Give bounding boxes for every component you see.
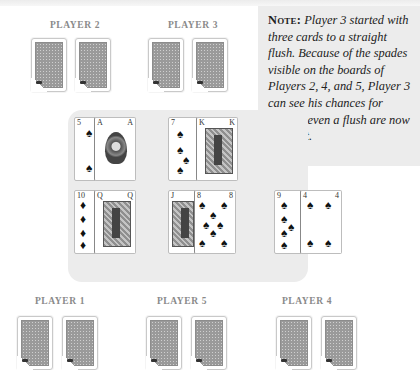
player-2-hole-card-1 <box>31 38 67 92</box>
player-1-hole-card-2 <box>62 316 98 370</box>
player-4-hole-card-2 <box>321 316 357 370</box>
spade-icon: ♠ <box>210 209 216 221</box>
board-card-4-spades: 4 4 ♠ ♠ ♠ ♠ <box>300 190 342 254</box>
board-card-8-spades: 8 8 ♠ ♠ ♠ ♠ ♠ ♠ ♠ ♠ <box>194 190 236 254</box>
spade-icon: ♠ <box>86 162 92 174</box>
card-curl-icon <box>192 78 208 92</box>
diamond-icon: ♦ <box>80 199 86 211</box>
spade-icon: ♠ <box>281 239 287 251</box>
spade-icon: ♠ <box>199 237 205 249</box>
spade-icon: ♠ <box>177 164 183 176</box>
spade-icon: ♠ <box>281 199 287 211</box>
card-curl-icon <box>75 78 91 92</box>
player-3-label: PLAYER 3 <box>148 20 238 30</box>
board-card-king-spades: K K <box>196 117 238 181</box>
player-2-hole-card-2 <box>75 38 111 92</box>
player-1-label: PLAYER 1 <box>15 296 105 306</box>
card-curl-icon <box>276 356 292 370</box>
spade-icon: ♠ <box>183 154 189 166</box>
jack-figure-icon <box>172 201 194 247</box>
board-card-queen-spades: Q Q <box>94 190 136 254</box>
spade-icon: ♠ <box>210 227 216 239</box>
board-card-ace-spades: A A <box>94 117 136 181</box>
spade-icon: ♠ <box>307 199 313 211</box>
spade-icon: ♠ <box>203 219 209 231</box>
player-5-hole-card-2 <box>191 316 227 370</box>
player-4-hole-card-1 <box>276 316 312 370</box>
card-curl-icon <box>31 78 47 92</box>
spade-icon: ♠ <box>86 127 92 139</box>
player-1-hole-card-1 <box>17 316 53 370</box>
spade-icon: ♠ <box>221 237 227 249</box>
diamond-icon: ♦ <box>80 239 86 251</box>
spade-icon: ♠ <box>281 213 287 225</box>
king-figure-icon <box>205 128 233 174</box>
player-2-label: PLAYER 2 <box>30 20 120 30</box>
card-curl-icon <box>148 78 164 92</box>
spade-icon: ♠ <box>325 199 331 211</box>
card-curl-icon <box>321 356 337 370</box>
spade-icon: ♠ <box>221 199 227 211</box>
card-curl-icon <box>17 356 33 370</box>
player-3-hole-card-1 <box>148 38 184 92</box>
spade-icon: ♠ <box>217 219 223 231</box>
diamond-icon: ♦ <box>80 213 86 225</box>
card-curl-icon <box>146 356 162 370</box>
spade-icon: ♠ <box>177 128 183 140</box>
player-3-hole-card-2 <box>192 38 228 92</box>
queen-figure-icon <box>103 201 131 247</box>
player-5-hole-card-1 <box>146 316 182 370</box>
player-5-label: PLAYER 5 <box>137 296 227 306</box>
ace-spade-emblem-icon <box>105 132 127 164</box>
spade-icon: ♠ <box>307 237 313 249</box>
card-curl-icon <box>62 356 78 370</box>
spade-icon: ♠ <box>288 221 294 233</box>
card-curl-icon <box>191 356 207 370</box>
spade-icon: ♠ <box>325 237 331 249</box>
note-label: Note: <box>268 13 301 27</box>
spade-icon: ♠ <box>199 199 205 211</box>
player-4-label: PLAYER 4 <box>262 296 352 306</box>
